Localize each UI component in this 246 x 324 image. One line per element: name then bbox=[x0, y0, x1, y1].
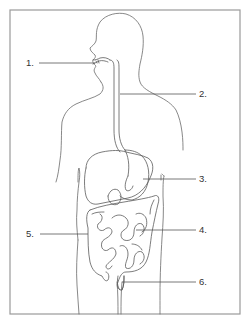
label-1: 1. bbox=[26, 57, 34, 68]
diagram-frame bbox=[10, 10, 240, 314]
label-4: 4. bbox=[199, 224, 207, 235]
label-2: 2. bbox=[199, 88, 207, 99]
label-3: 3. bbox=[199, 173, 207, 184]
digestive-system-diagram: 1. 2. 3. 4. 5. 6. bbox=[0, 0, 246, 324]
label-5: 5. bbox=[26, 228, 34, 239]
label-6: 6. bbox=[199, 276, 207, 287]
